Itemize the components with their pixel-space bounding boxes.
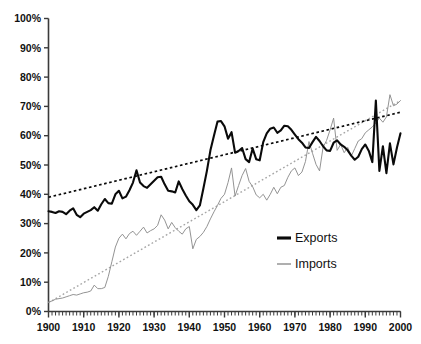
x-tick-label-1990: 1990 — [354, 321, 378, 333]
y-tick-label-30%: 30% — [20, 217, 42, 229]
exports-imports-line-chart: 0%10%20%30%40%50%60%70%80%90%100% 190019… — [0, 0, 421, 344]
y-tick-label-0%: 0% — [26, 305, 42, 317]
x-tick-label-1950: 1950 — [213, 321, 237, 333]
y-axis-tick-labels: 0%10%20%30%40%50%60%70%80%90%100% — [14, 12, 42, 317]
imports-trendline — [49, 101, 401, 303]
y-tick-label-10%: 10% — [20, 276, 42, 288]
x-tick-label-1980: 1980 — [318, 321, 342, 333]
x-tick-label-1970: 1970 — [283, 321, 307, 333]
chart-container: 0%10%20%30%40%50%60%70%80%90%100% 190019… — [0, 0, 421, 344]
chart-legend: Exports Imports — [277, 231, 337, 271]
y-tick-label-40%: 40% — [20, 188, 42, 200]
plot-area — [49, 95, 401, 303]
y-tick-label-80%: 80% — [20, 71, 42, 83]
legend-label-imports: Imports — [295, 257, 337, 271]
y-tick-label-60%: 60% — [20, 129, 42, 141]
legend-label-exports: Exports — [295, 231, 337, 245]
x-tick-label-1900: 1900 — [37, 321, 61, 333]
x-tick-label-1920: 1920 — [107, 321, 131, 333]
exports-series-line — [49, 101, 401, 218]
y-tick-label-20%: 20% — [20, 247, 42, 259]
y-tick-label-50%: 50% — [20, 159, 42, 171]
x-axis-group: 1900191019201930194019501960197019801990… — [37, 312, 413, 333]
x-tick-label-1930: 1930 — [142, 321, 166, 333]
y-tick-label-90%: 90% — [20, 42, 42, 54]
x-tick-label-1960: 1960 — [248, 321, 272, 333]
x-tick-label-1910: 1910 — [72, 321, 96, 333]
y-tick-label-70%: 70% — [20, 100, 42, 112]
x-axis-tick-labels: 1900191019201930194019501960197019801990… — [37, 321, 413, 333]
y-axis-group: 0%10%20%30%40%50%60%70%80%90%100% — [14, 12, 48, 317]
x-tick-label-1940: 1940 — [178, 321, 202, 333]
legend-item-imports: Imports — [277, 257, 337, 271]
legend-item-exports: Exports — [277, 231, 337, 245]
y-tick-label-100%: 100% — [14, 12, 42, 24]
x-tick-label-2000: 2000 — [389, 321, 413, 333]
